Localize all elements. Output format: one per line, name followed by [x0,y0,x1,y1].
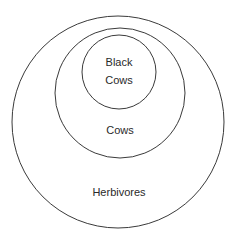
cows-label: Cows [106,124,134,136]
black-cows-label-line1: Black [106,56,133,68]
black-cows-circle [82,35,156,109]
black-cows-label-line2: Cows [105,74,133,86]
cows-circle [55,28,185,158]
herbivores-label: Herbivores [92,186,146,198]
euler-diagram: Black Cows Cows Herbivores [0,0,232,241]
